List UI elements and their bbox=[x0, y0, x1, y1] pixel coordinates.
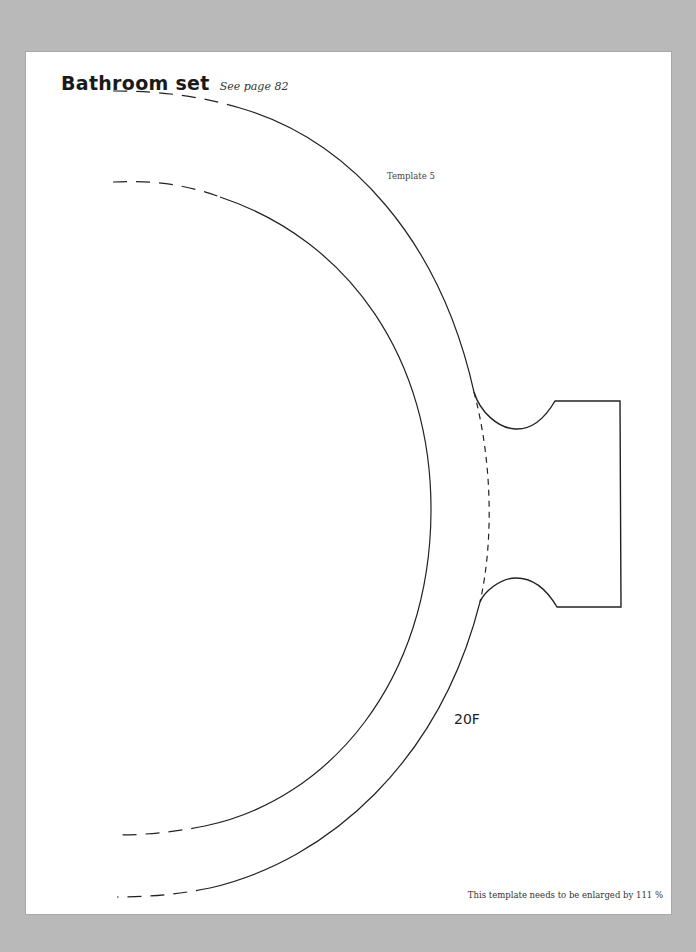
outer-arc-top-dashed bbox=[113, 91, 240, 108]
inner-arc-bottom-dashed bbox=[117, 826, 205, 835]
outer-arc-top-solid bbox=[240, 108, 474, 392]
tab-outline bbox=[474, 392, 621, 607]
inner-arc-solid bbox=[205, 197, 431, 826]
outer-arc-bottom-dashed bbox=[117, 888, 210, 897]
outer-arc-tab-dashed bbox=[474, 392, 489, 602]
inner-arc-top-dashed bbox=[113, 182, 220, 197]
pattern-drawing bbox=[0, 0, 696, 952]
